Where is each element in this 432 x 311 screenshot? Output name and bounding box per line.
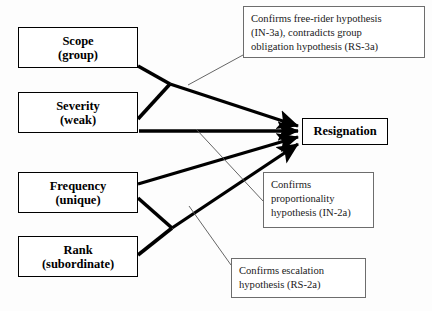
link-severity-to-junction [138,84,170,119]
link-junction-top-to-resignation [170,84,298,126]
note-free-rider-line-2: (IN-3a), contradicts group [251,26,418,40]
factor-box-frequency[interactable]: Frequency (unique) [18,172,138,213]
factor-scope-title: Scope [62,34,93,48]
note-proportionality-line-3: hypothesis (IN-2a) [271,206,367,220]
link-rank-to-junction [138,228,172,255]
factor-box-rank[interactable]: Rank (subordinate) [18,236,138,277]
note-proportionality-line-2: proportionality [271,192,367,206]
note-free-rider-line-1: Confirms free-rider hypothesis [251,12,418,26]
factor-severity-title: Severity [56,99,100,113]
note-escalation-line-1: Confirms escalation [239,264,359,278]
note-escalation-line-2: hypothesis (RS-2a) [239,278,359,292]
diagram-canvas: Scope (group) Severity (weak) Frequency … [0,0,432,311]
factor-rank-title: Rank [63,243,92,257]
note-proportionality-line-1: Confirms [271,178,367,192]
leader-escalation [189,206,231,265]
factor-frequency-subtitle: (unique) [55,193,100,207]
note-box-proportionality[interactable]: Confirms proportionality hypothesis (IN-… [263,172,374,228]
leader-free-rider [188,55,243,85]
note-box-escalation[interactable]: Confirms escalation hypothesis (RS-2a) [231,258,366,298]
factor-rank-subtitle: (subordinate) [42,257,114,271]
note-free-rider-line-3: obligation hypothesis (RS-3a) [251,40,418,54]
outcome-label: Resignation [313,124,376,139]
factor-frequency-title: Frequency [50,179,107,193]
link-scope-to-junction [138,66,170,84]
note-box-free-rider[interactable]: Confirms free-rider hypothesis (IN-3a), … [243,6,425,58]
factor-severity-subtitle: (weak) [60,113,96,127]
outcome-box-resignation[interactable]: Resignation [302,118,388,145]
link-frequency-to-junction [138,198,172,228]
factor-box-severity[interactable]: Severity (weak) [18,92,138,133]
factor-box-scope[interactable]: Scope (group) [18,27,138,68]
factor-scope-subtitle: (group) [58,48,98,62]
